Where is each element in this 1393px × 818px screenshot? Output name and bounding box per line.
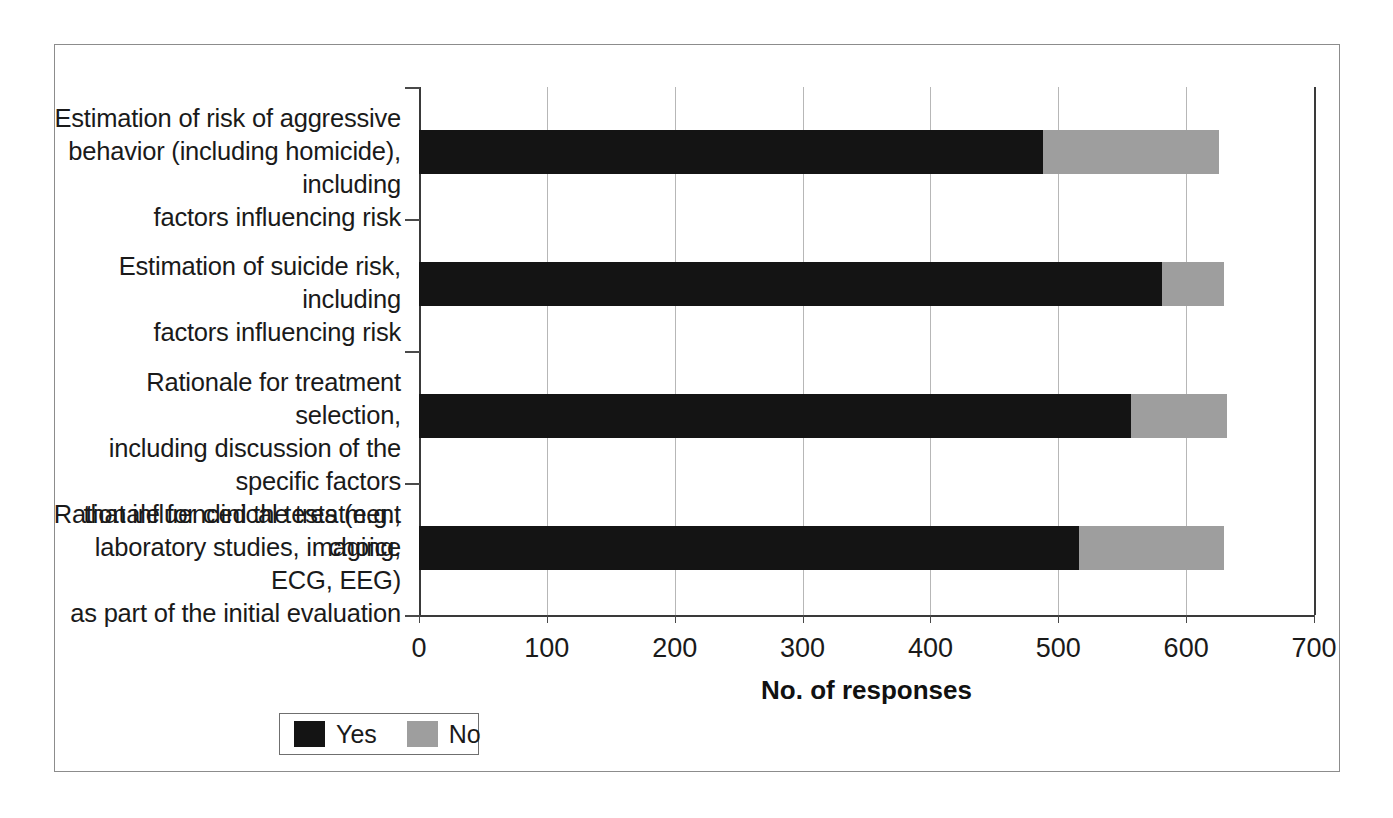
category-label-line: Estimation of suicide risk, including xyxy=(49,250,401,316)
bar-segment-no[interactable] xyxy=(1131,394,1227,438)
plot-right-edge xyxy=(1314,87,1316,615)
legend-item-yes[interactable]: Yes xyxy=(294,714,377,754)
category-label: Estimation of suicide risk, includingfac… xyxy=(49,250,401,349)
x-axis-tick-label: 700 xyxy=(1291,633,1336,663)
bar-segment-yes[interactable] xyxy=(419,130,1043,174)
bar-segment-yes[interactable] xyxy=(419,526,1079,570)
legend-label-no: No xyxy=(449,720,481,749)
chart-figure-frame: 0100200300400500600700 Estimation of ris… xyxy=(54,44,1340,772)
category-label-line: as part of the initial evaluation xyxy=(49,597,401,630)
chart-legend: Yes No xyxy=(279,713,479,755)
category-label-line: Estimation of risk of aggressive xyxy=(49,102,401,135)
category-label-line: laboratory studies, imaging, ECG, EEG) xyxy=(49,531,401,597)
bar-segment-no[interactable] xyxy=(1079,526,1225,570)
legend-item-no[interactable]: No xyxy=(407,714,481,754)
y-axis-category-tick xyxy=(405,615,420,617)
y-axis-category-tick xyxy=(405,483,420,485)
table-row xyxy=(419,394,1314,438)
x-axis-tick xyxy=(1314,615,1315,623)
y-axis-category-tick xyxy=(405,87,420,89)
x-axis-tick-label: 600 xyxy=(1164,633,1209,663)
x-axis-line xyxy=(419,615,1314,617)
y-axis-category-tick xyxy=(405,219,420,221)
category-label: Rationale for clinical tests (e.g.,labor… xyxy=(49,498,401,630)
legend-label-yes: Yes xyxy=(336,720,377,749)
category-label-line: behavior (including homicide), including xyxy=(49,135,401,201)
category-label-line: factors influencing risk xyxy=(49,201,401,234)
y-axis-category-tick xyxy=(405,351,420,353)
bar-segment-no[interactable] xyxy=(1043,130,1219,174)
table-row xyxy=(419,262,1314,306)
x-axis-tick-label: 300 xyxy=(780,633,825,663)
category-label-line: including discussion of the specific fac… xyxy=(49,432,401,498)
x-axis-tick xyxy=(1186,615,1187,623)
bar-segment-yes[interactable] xyxy=(419,262,1162,306)
x-axis-tick-label: 200 xyxy=(652,633,697,663)
legend-swatch-no-icon xyxy=(407,721,438,747)
x-axis-tick-label: 100 xyxy=(524,633,569,663)
category-label-line: factors influencing risk xyxy=(49,316,401,349)
category-label: Estimation of risk of aggressivebehavior… xyxy=(49,102,401,234)
x-axis-tick xyxy=(547,615,548,623)
x-axis-tick xyxy=(803,615,804,623)
bar-segment-no[interactable] xyxy=(1162,262,1225,306)
table-row xyxy=(419,130,1314,174)
legend-swatch-yes-icon xyxy=(294,721,325,747)
x-axis-tick-label: 0 xyxy=(411,633,426,663)
category-label-line: Rationale for treatment selection, xyxy=(49,366,401,432)
x-axis-tick-label: 500 xyxy=(1036,633,1081,663)
category-label-line: Rationale for clinical tests (e.g., xyxy=(49,498,401,531)
x-axis-tick xyxy=(930,615,931,623)
x-axis-tick-label: 400 xyxy=(908,633,953,663)
x-axis-tick xyxy=(675,615,676,623)
x-axis-title: No. of responses xyxy=(419,675,1314,706)
plot-area: 0100200300400500600700 xyxy=(419,87,1314,615)
bar-segment-yes[interactable] xyxy=(419,394,1131,438)
table-row xyxy=(419,526,1314,570)
x-axis-tick xyxy=(1058,615,1059,623)
